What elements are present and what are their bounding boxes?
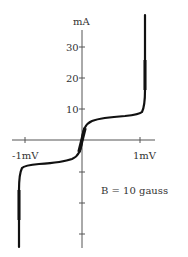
y-axis-unit-label: mA	[73, 16, 90, 27]
x-tick-label-pos: 1mV	[133, 150, 157, 161]
y-tick-label-30: 30	[66, 42, 79, 53]
iv-chart: mA 30 20 10 -1mV 1mV B = 10 gauss	[0, 0, 188, 257]
iv-curve-upper	[82, 15, 145, 140]
field-annotation: B = 10 gauss	[101, 185, 168, 196]
x-tick-label-neg: -1mV	[12, 150, 39, 161]
y-tick-label-10: 10	[66, 104, 79, 115]
y-tick-label-20: 20	[66, 73, 79, 84]
